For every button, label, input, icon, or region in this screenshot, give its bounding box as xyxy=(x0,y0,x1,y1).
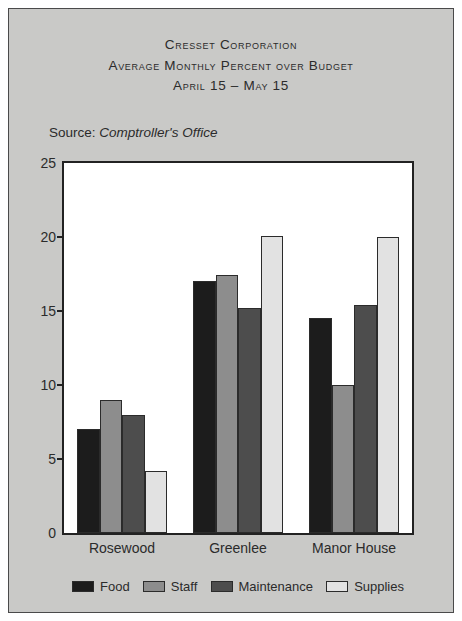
y-axis-tick-label: 10 xyxy=(40,377,56,393)
y-axis-tick-label: 25 xyxy=(40,155,56,171)
bar-staff-greenlee xyxy=(216,275,239,533)
chart-legend: FoodStaffMaintenanceSupplies xyxy=(62,579,414,594)
bar-group xyxy=(64,163,180,533)
legend-label-supplies: Supplies xyxy=(354,579,404,594)
source-label: Source: xyxy=(49,125,96,140)
y-axis-tick-label: 0 xyxy=(48,525,56,541)
legend-item-staff[interactable]: Staff xyxy=(143,579,198,594)
bar-maintenance-manor-house xyxy=(354,305,377,533)
legend-label-staff: Staff xyxy=(171,579,198,594)
chart-source: Source: Comptroller's Office xyxy=(49,125,217,140)
y-axis-tick-label: 20 xyxy=(40,229,56,245)
x-axis-label-manor-house: Manor House xyxy=(312,540,396,556)
legend-label-food: Food xyxy=(100,579,130,594)
x-axis-label-rosewood: Rosewood xyxy=(89,540,155,556)
x-axis-label-greenlee: Greenlee xyxy=(209,540,267,556)
bar-food-manor-house xyxy=(309,318,332,533)
y-axis-tick-mark xyxy=(57,236,64,238)
chart-title-line-2: Average Monthly Percent over Budget xyxy=(9,56,453,77)
chart-figure: Cresset Corporation Average Monthly Perc… xyxy=(8,8,454,613)
legend-item-supplies[interactable]: Supplies xyxy=(326,579,404,594)
bar-food-rosewood xyxy=(77,429,100,533)
chart-title-block: Cresset Corporation Average Monthly Perc… xyxy=(9,35,453,97)
plot-area: 0510152025 xyxy=(62,161,414,535)
legend-swatch-food xyxy=(72,581,94,592)
x-axis-labels: RosewoodGreenleeManor House xyxy=(62,540,414,562)
legend-swatch-staff xyxy=(143,581,165,592)
bar-supplies-rosewood xyxy=(145,471,168,533)
bar-staff-manor-house xyxy=(332,385,355,533)
bar-supplies-greenlee xyxy=(261,236,284,533)
plot-inner: 0510152025 xyxy=(64,163,412,533)
bar-staff-rosewood xyxy=(100,400,123,533)
bar-food-greenlee xyxy=(193,281,216,533)
y-axis-tick-label: 15 xyxy=(40,303,56,319)
legend-item-food[interactable]: Food xyxy=(72,579,130,594)
legend-swatch-maintenance xyxy=(211,581,233,592)
bar-group xyxy=(296,163,412,533)
bar-supplies-manor-house xyxy=(377,237,400,533)
y-axis-tick-mark xyxy=(57,458,64,460)
bar-maintenance-greenlee xyxy=(238,308,261,533)
chart-title-line-3: April 15 – May 15 xyxy=(9,76,453,97)
y-axis-tick-mark xyxy=(57,310,64,312)
y-axis-tick-mark xyxy=(57,384,64,386)
bar-maintenance-rosewood xyxy=(122,415,145,533)
bar-group xyxy=(180,163,296,533)
source-value: Comptroller's Office xyxy=(99,125,217,140)
legend-swatch-supplies xyxy=(326,581,348,592)
legend-item-maintenance[interactable]: Maintenance xyxy=(211,579,313,594)
y-axis-tick-label: 5 xyxy=(48,451,56,467)
legend-label-maintenance: Maintenance xyxy=(239,579,313,594)
chart-title-line-1: Cresset Corporation xyxy=(9,35,453,56)
